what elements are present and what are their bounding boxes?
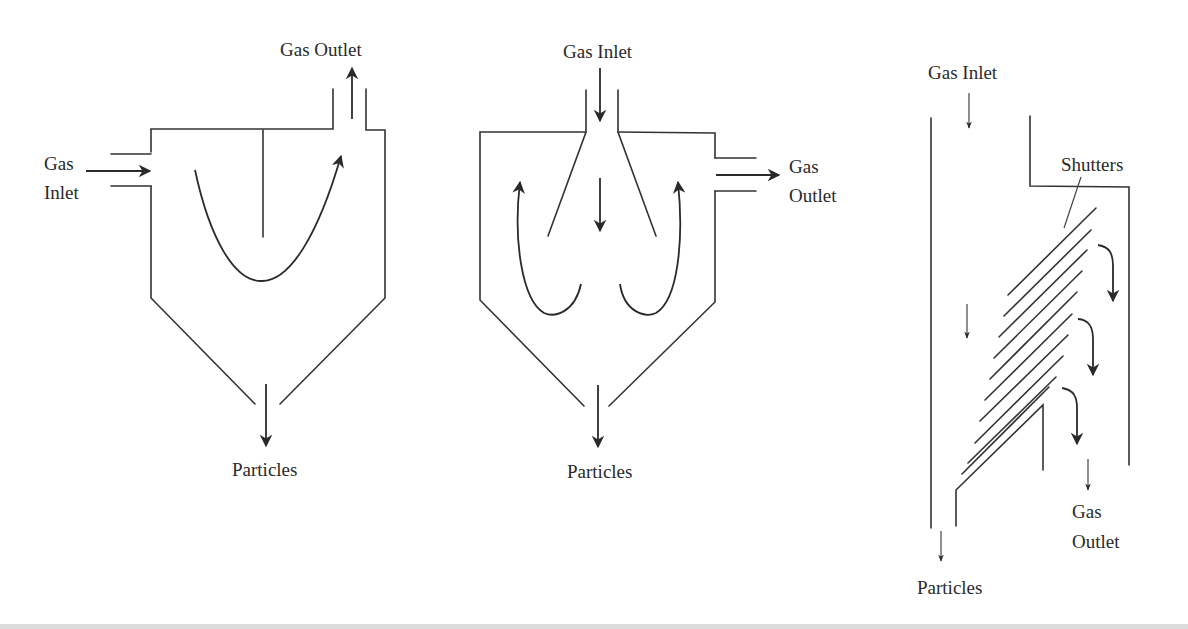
shutters-leader-line	[1064, 177, 1081, 228]
label-particles: Particles	[232, 459, 297, 480]
vessel-outline	[480, 132, 715, 406]
shutter	[985, 314, 1072, 400]
right-vortex-arrow-icon	[620, 182, 680, 315]
figure-tangential-separator: Gas Outlet Gas Inlet Particles	[44, 39, 385, 480]
label-gas-outlet-line2: Outlet	[789, 185, 837, 206]
label-gas-outlet-line1: Gas	[789, 156, 819, 177]
label-gas-inlet-line1: Gas	[44, 153, 74, 174]
label-gas-inlet: Gas Inlet	[928, 62, 998, 83]
label-gas-inlet: Gas Inlet	[563, 41, 633, 62]
left-vortex-arrow-icon	[518, 182, 581, 315]
vessel-outline	[151, 89, 385, 404]
gas-turn-arrow-icon	[1062, 388, 1077, 444]
label-shutters: Shutters	[1061, 154, 1123, 175]
figure-shutter-separator: Gas Inlet Shutters Gas Outlet Particles	[917, 62, 1129, 598]
label-particles: Particles	[917, 577, 982, 598]
shutters	[962, 208, 1096, 474]
shutter	[999, 250, 1087, 337]
inner-channel-wall	[956, 405, 1043, 526]
label-gas-outlet-line1: Gas	[1072, 501, 1102, 522]
gas-turn-arrow-icon	[1098, 245, 1113, 301]
gas-turn-arrow-icon	[1078, 319, 1093, 375]
shutter	[1004, 230, 1091, 316]
shutter	[1008, 208, 1096, 295]
shutter	[975, 356, 1063, 443]
shutter	[994, 271, 1082, 358]
inlet-cone	[548, 90, 656, 236]
flow-curve-arrow-icon	[195, 156, 341, 281]
shutter	[990, 292, 1077, 379]
shutter	[962, 387, 1049, 474]
label-gas-inlet-line2: Inlet	[44, 182, 80, 203]
inlet-duct	[111, 154, 151, 186]
bottom-border-band	[0, 624, 1188, 629]
label-particles: Particles	[567, 461, 632, 482]
label-gas-outlet-line2: Outlet	[1072, 531, 1120, 552]
figure-top-inlet-separator: Gas Inlet Gas Outlet Particles	[480, 41, 837, 482]
diagram-canvas: Gas Outlet Gas Inlet Particles Gas Inlet…	[0, 0, 1188, 629]
label-gas-outlet: Gas Outlet	[280, 39, 363, 60]
